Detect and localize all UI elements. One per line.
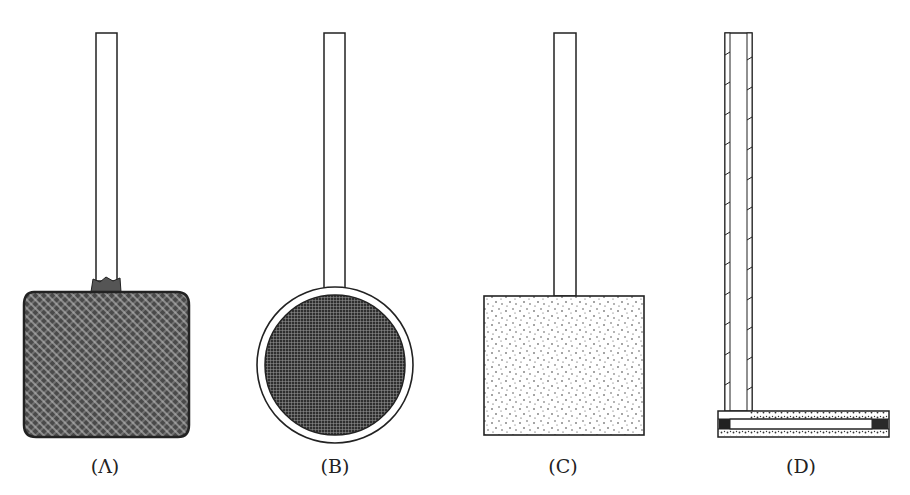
panel-a-tube: [96, 33, 117, 281]
panel-b-tube: [324, 33, 345, 290]
panel-b: [257, 33, 413, 443]
panel-d-right-plug: [872, 419, 888, 429]
panel-c-label: (C): [548, 455, 577, 477]
panel-d-label: (D): [786, 455, 816, 477]
panel-d-base-bottom-layer: [719, 429, 888, 436]
panel-d: [718, 33, 889, 437]
panel-c-stippled-block: [484, 296, 644, 435]
panel-a-label: (Λ): [91, 455, 120, 477]
panel-c-tube: [554, 33, 576, 296]
panel-d-left-plug: [719, 419, 730, 429]
panel-d-channel: [730, 419, 872, 429]
panel-b-label: (B): [321, 455, 350, 477]
panel-d-base-top-layer: [750, 412, 888, 419]
panel-a: [24, 33, 189, 437]
diagram-canvas: [0, 0, 910, 495]
panel-a-mesh-bag: [24, 292, 189, 437]
panel-b-grid-disc: [265, 295, 405, 435]
panel-c: [484, 33, 644, 435]
